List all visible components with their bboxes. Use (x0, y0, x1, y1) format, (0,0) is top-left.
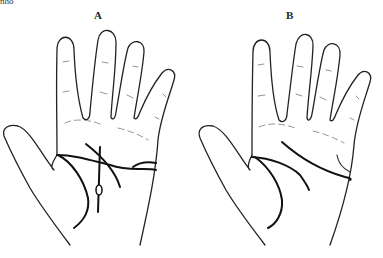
hand-b (199, 34, 370, 245)
hand-a (4, 30, 175, 245)
hand-diagrams (0, 0, 383, 258)
